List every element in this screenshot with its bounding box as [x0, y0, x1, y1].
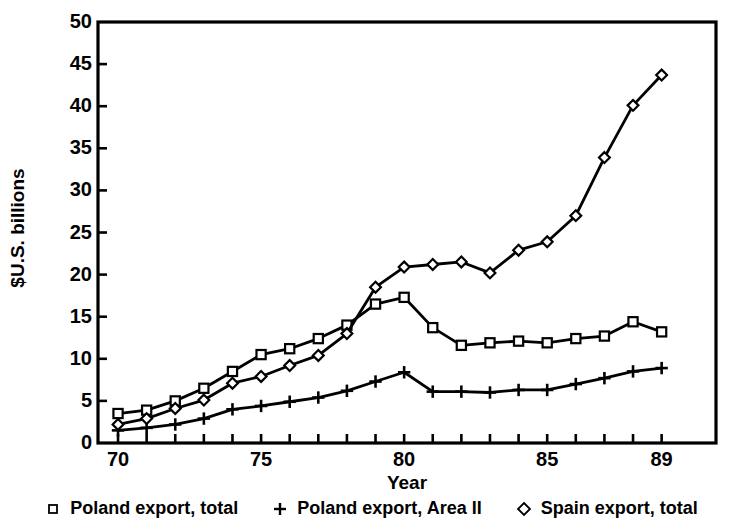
square-icon	[45, 501, 61, 517]
chart-legend: Poland export, totalPoland export, Area …	[0, 498, 743, 519]
legend-item: Poland export, total	[45, 498, 238, 519]
plot-area	[0, 0, 743, 527]
legend-item: Poland export, Area II	[272, 498, 481, 519]
legend-item: Spain export, total	[516, 498, 698, 519]
legend-label: Poland export, total	[70, 498, 238, 519]
plot-frame	[98, 22, 716, 443]
data-series	[112, 362, 668, 437]
legend-label: Spain export, total	[541, 498, 698, 519]
data-series	[113, 293, 666, 418]
diamond-icon	[516, 501, 532, 517]
x-axis-title: Year	[98, 472, 716, 494]
legend-label: Poland export, Area II	[297, 498, 481, 519]
line-chart-figure: $U.S. billions 05101520253035404550 7075…	[0, 0, 743, 527]
plus-icon	[272, 501, 288, 517]
